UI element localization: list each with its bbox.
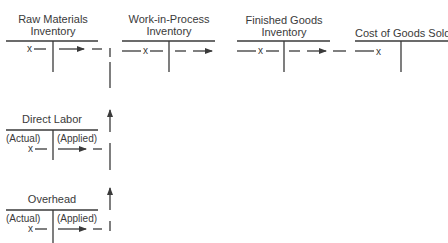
finished-goods-entry-mark: x — [258, 46, 263, 56]
cogs-t-account — [355, 41, 448, 72]
finished-goods-t-account — [237, 41, 346, 72]
overhead-title: Overhead — [6, 193, 98, 205]
raw-materials-title-line1: Raw Materials — [4, 13, 102, 25]
wip-entry-mark: x — [143, 46, 148, 56]
direct-labor-actual-label: (Actual) — [6, 133, 40, 144]
wip-title-line2: Inventory — [122, 25, 216, 37]
wip-title-line1: Work-in-Process — [122, 13, 216, 25]
overhead-actual-label: (Actual) — [6, 213, 40, 224]
direct-labor-applied-label: (Applied) — [57, 133, 97, 144]
wip-t-account — [122, 41, 215, 72]
raw-materials-entry-mark: x — [27, 44, 32, 54]
cogs-entry-mark: x — [376, 47, 381, 57]
overhead-applied-label: (Applied) — [57, 213, 97, 224]
cogs-title: Cost of Goods Sold — [355, 27, 448, 39]
raw-materials-t-account — [6, 41, 102, 72]
direct-labor-entry-mark: x — [28, 144, 33, 154]
overhead-entry-mark: x — [28, 224, 33, 234]
direct-labor-title: Direct Labor — [6, 113, 98, 125]
finished-goods-title-line2: Inventory — [237, 26, 331, 38]
raw-materials-title-line2: Inventory — [4, 25, 102, 37]
finished-goods-title-line1: Finished Goods — [237, 14, 331, 26]
